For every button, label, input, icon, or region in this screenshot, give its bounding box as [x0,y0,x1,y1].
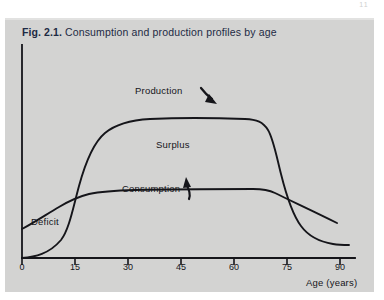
x-axis-title: Age (years) [306,277,357,288]
x-tick-label-0: 0 [12,262,32,272]
chart-svg [5,18,374,292]
x-tick-label-15: 15 [65,262,85,272]
deficit-region-label: Deficit [31,216,59,227]
surplus-region-label: Surplus [156,139,190,150]
axes [22,45,355,258]
figure-panel: 11 Fig. 2.1. Consumption and production … [0,0,384,300]
consumption-label: Consumption [122,183,180,194]
x-tick-label-90: 90 [330,262,350,272]
x-tick-label-75: 75 [277,262,297,272]
plot-area [5,18,374,292]
x-tick-label-60: 60 [224,262,244,272]
page-number-mark: 11 [356,1,372,9]
x-tick-label-30: 30 [118,262,138,272]
consumption-arrow-icon [183,177,191,199]
x-tick-label-45: 45 [171,262,191,272]
production-label: Production [135,85,182,96]
production-arrow-icon [201,88,217,104]
